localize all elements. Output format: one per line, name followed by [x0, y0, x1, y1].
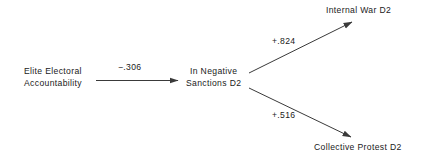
node-elite-electoral-accountability: Elite Electoral Accountability	[24, 66, 82, 89]
node-label-line-1: Collective Protest D2	[314, 142, 402, 154]
path-diagram: Elite Electoral Accountability In Negati…	[0, 0, 426, 162]
node-label-line-2: Sanctions D2	[186, 78, 241, 90]
arrow-sanctions-to-collective-protest	[249, 88, 351, 137]
edge-label-sanctions-to-internal-war: +.824	[272, 36, 296, 47]
edge-sanctions-to-collective-protest	[249, 88, 351, 137]
node-internal-war: Internal War D2	[326, 5, 391, 17]
edge-label-sanctions-to-collective-protest: +.516	[272, 110, 296, 121]
arrow-sanctions-to-internal-war	[249, 22, 352, 73]
edge-label-accountability-to-sanctions: −.306	[118, 62, 142, 73]
edge-sanctions-to-internal-war	[249, 22, 352, 73]
node-in-negative-sanctions: In Negative Sanctions D2	[186, 66, 241, 89]
node-collective-protest: Collective Protest D2	[314, 142, 402, 154]
node-label-line-1: In Negative	[186, 66, 241, 78]
node-label-line-1: Elite Electoral	[24, 66, 82, 78]
node-label-line-1: Internal War D2	[326, 5, 391, 17]
node-label-line-2: Accountability	[24, 78, 82, 90]
